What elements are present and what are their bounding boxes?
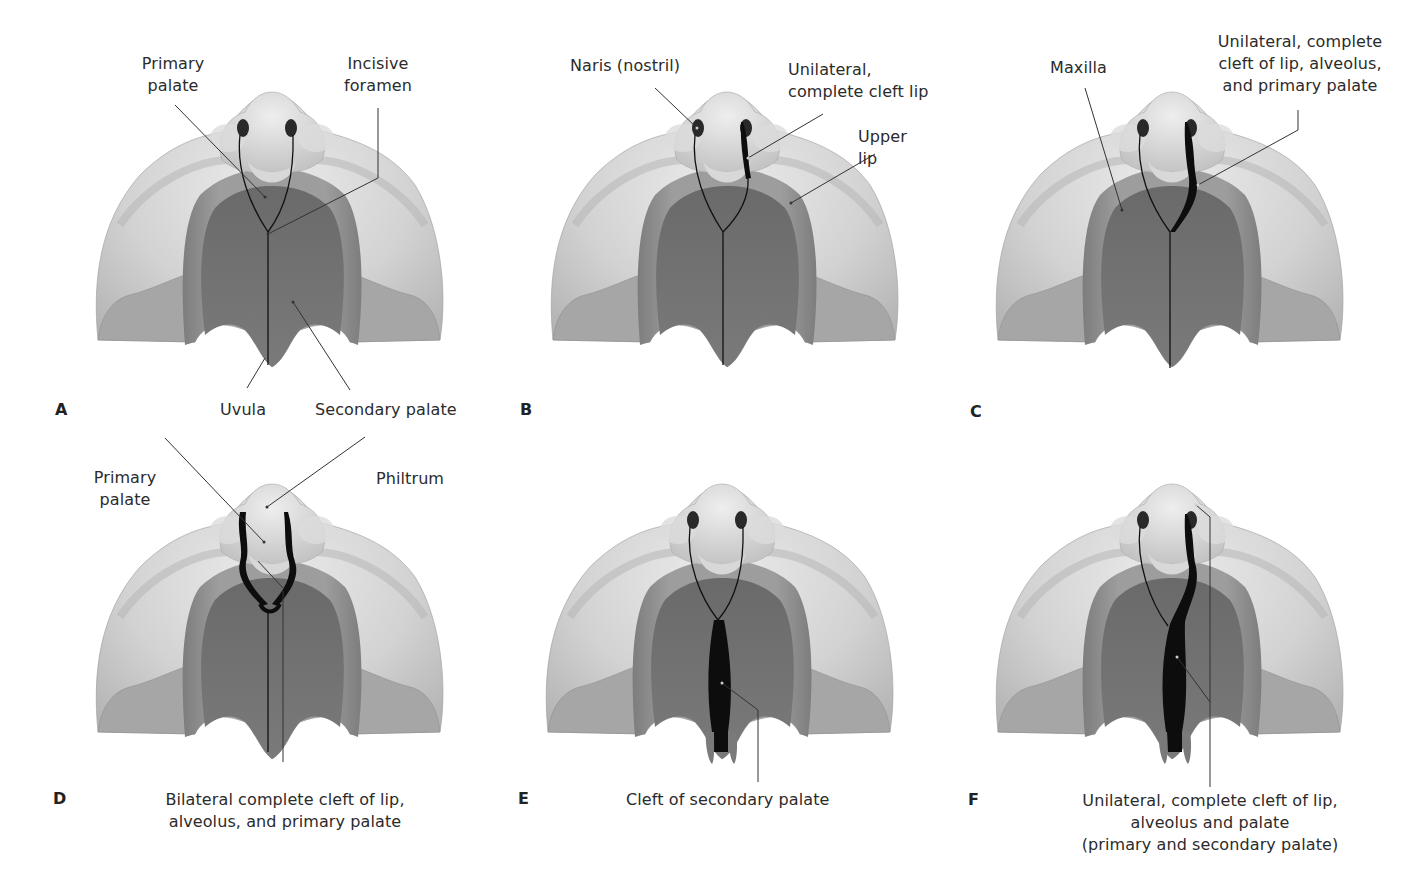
palate-illustration-unilateral-complete-cleft	[900, 392, 1375, 834]
panel-a: Primary palate Incisive foramen Uvula Se…	[0, 0, 475, 442]
label-bilateral-complete-cleft: Bilateral complete cleft of lip, alveolu…	[150, 789, 420, 833]
panel-letter-f: F	[968, 790, 979, 809]
panel-c: Maxilla Unilateral, complete cleft of li…	[900, 0, 1375, 442]
label-incisive-foramen: Incisive foramen	[332, 53, 424, 97]
panel-e: Cleft of secondary palate E	[450, 392, 925, 834]
label-philtrum: Philtrum	[376, 468, 444, 490]
label-maxilla: Maxilla	[1050, 57, 1107, 79]
palate-illustration-cleft-secondary-palate	[450, 392, 925, 834]
panel-letter-e: E	[518, 789, 529, 808]
label-primary-palate-d: Primary palate	[80, 467, 170, 511]
panel-d: Primary palate Philtrum Bilateral comple…	[0, 392, 475, 834]
panel-letter-d: D	[53, 789, 66, 808]
palate-illustration-bilateral-cleft	[0, 392, 475, 834]
panel-f: Unilateral, complete cleft of lip, alveo…	[900, 392, 1375, 834]
panel-b: Naris (nostril) Unilateral, complete cle…	[455, 0, 930, 442]
label-unilateral-cleft-lip-alveolus-primary-palate: Unilateral, complete cleft of lip, alveo…	[1210, 31, 1390, 97]
label-cleft-of-secondary-palate: Cleft of secondary palate	[626, 789, 830, 811]
label-primary-palate: Primary palate	[128, 53, 218, 97]
cleft-palate-figure: Primary palate Incisive foramen Uvula Se…	[0, 0, 1425, 884]
label-unilateral-complete-cleft-lip-alveolus-palate: Unilateral, complete cleft of lip, alveo…	[1075, 790, 1345, 856]
label-naris: Naris (nostril)	[570, 55, 680, 77]
